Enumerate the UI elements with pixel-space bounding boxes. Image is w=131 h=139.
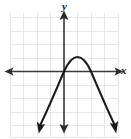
coordinate-plane-svg xyxy=(0,0,131,139)
x-axis-label: x xyxy=(121,65,127,76)
graph-figure: x y xyxy=(0,0,131,139)
y-axis-label: y xyxy=(62,1,67,12)
